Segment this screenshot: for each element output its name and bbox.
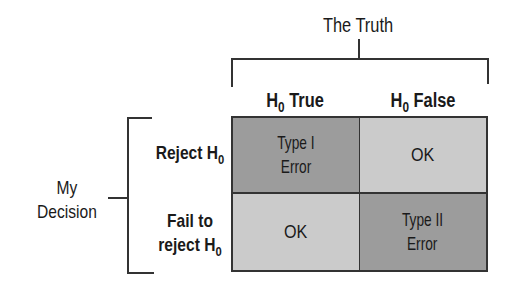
cell-ok-fail-true: OK bbox=[233, 194, 360, 270]
top-bracket-right-tick bbox=[487, 58, 489, 84]
decision-matrix: Type IError OK OK Type IIError bbox=[231, 116, 488, 272]
left-bracket-vertical bbox=[127, 117, 129, 274]
cell-ok-reject-false: OK bbox=[360, 118, 487, 194]
column-header-h0-true: H0 True bbox=[243, 89, 348, 112]
cell-type-i-error: Type IError bbox=[233, 118, 360, 194]
left-bracket-top-tick bbox=[127, 117, 152, 119]
cell-type-ii-error: Type IIError bbox=[360, 194, 487, 270]
row-header-fail-to-reject-h0: Fail to reject H0 bbox=[156, 209, 225, 257]
the-truth-label: The Truth bbox=[317, 14, 399, 37]
column-header-h0-false: H0 False bbox=[371, 89, 476, 112]
my-decision-label: My Decision bbox=[30, 176, 104, 224]
row-header-reject-h0: Reject H0 bbox=[156, 141, 225, 165]
top-bracket-center-tick bbox=[358, 39, 360, 59]
top-bracket-horizontal bbox=[231, 58, 489, 60]
left-bracket-bottom-tick bbox=[127, 272, 154, 274]
left-bracket-center-tick bbox=[108, 197, 128, 199]
top-bracket-left-tick bbox=[231, 58, 233, 87]
